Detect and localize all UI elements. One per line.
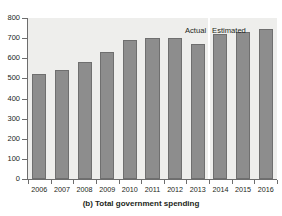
bar-2014 (213, 34, 227, 179)
bar-2012 (168, 38, 182, 179)
y-axis-tick-label: 200 (0, 135, 20, 143)
y-axis-tick-label: 800 (0, 14, 20, 22)
x-axis-tick-label-2016: 2016 (254, 186, 277, 193)
x-axis-tick (51, 180, 52, 184)
x-axis-tick (96, 180, 97, 184)
bar-2008 (78, 62, 92, 179)
bar-2009 (100, 52, 114, 179)
chart-figure: 0100200300400500600700800 Actual Estimat… (0, 0, 282, 216)
bar-2007 (55, 70, 69, 179)
bar-2011 (145, 38, 159, 179)
figure-caption: (b) Total government spending (0, 199, 282, 208)
y-axis-tick (22, 78, 27, 79)
y-axis-tick (22, 119, 27, 120)
y-axis-tick (22, 58, 27, 59)
y-axis-tick-label: 700 (0, 34, 20, 42)
y-axis-tick (22, 18, 27, 19)
y-axis-tick-label: 0 (0, 175, 20, 183)
x-axis-tick-label-2006: 2006 (28, 186, 51, 193)
y-axis-tick (22, 99, 27, 100)
bar-2015 (236, 32, 250, 179)
region-label-estimated: Estimated (212, 27, 246, 35)
x-axis-tick (73, 180, 74, 184)
x-axis-tick (141, 180, 142, 184)
y-axis-tick-label: 400 (0, 95, 20, 103)
x-axis-tick (164, 180, 165, 184)
x-axis-tick (277, 180, 278, 184)
x-axis-tick-label-2009: 2009 (96, 186, 119, 193)
x-axis-tick (186, 180, 187, 184)
x-axis-tick (119, 180, 120, 184)
bar-2013 (191, 44, 205, 179)
x-axis-tick-label-2014: 2014 (209, 186, 232, 193)
x-axis-tick-label-2010: 2010 (119, 186, 142, 193)
y-axis-tick (22, 159, 27, 160)
x-axis-tick-label-2013: 2013 (186, 186, 209, 193)
x-axis-tick-label-2012: 2012 (164, 186, 187, 193)
region-label-actual: Actual (177, 27, 206, 35)
y-axis-tick (22, 139, 27, 140)
y-axis-tick (22, 179, 27, 180)
x-axis-tick (28, 180, 29, 184)
bar-2006 (32, 74, 46, 179)
y-axis-line (27, 18, 28, 179)
x-axis-line (27, 179, 277, 180)
y-axis-tick-label: 300 (0, 115, 20, 123)
x-axis-tick-label-2015: 2015 (232, 186, 255, 193)
x-axis-tick (254, 180, 255, 184)
bar-2010 (123, 40, 137, 179)
x-axis-tick-label-2007: 2007 (51, 186, 74, 193)
y-axis-tick (22, 38, 27, 39)
x-axis-tick-label-2008: 2008 (73, 186, 96, 193)
x-axis-tick-label-2011: 2011 (141, 186, 164, 193)
y-axis-tick-label: 600 (0, 54, 20, 62)
y-axis-tick-label: 500 (0, 74, 20, 82)
x-axis-tick (209, 180, 210, 184)
bar-2016 (259, 29, 273, 179)
forecast-divider-line (209, 18, 210, 179)
y-axis-tick-label: 100 (0, 155, 20, 163)
x-axis-tick (232, 180, 233, 184)
